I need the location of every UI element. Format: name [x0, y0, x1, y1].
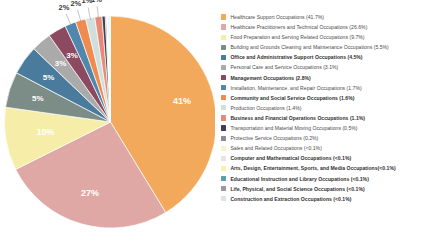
pie-slice-percent-label: 41%: [173, 96, 191, 106]
legend-color-swatch: [221, 115, 226, 120]
pie-chart-figure: 41%27%10%5%5%3%3%2%2%1%1% Healthcare Sup…: [0, 0, 427, 243]
legend-item-label: Arts, Design, Entertainment, Sports, and…: [230, 163, 395, 173]
legend-item-label: Personal Care and Service Occupations (3…: [230, 62, 338, 72]
pie-chart-panel: 41%27%10%5%5%3%3%2%2%1%1%: [0, 0, 215, 243]
legend-item-label: Installation, Maintenance, and Repair Oc…: [230, 83, 361, 93]
legend-item[interactable]: Food Preparation and Serving Related Occ…: [221, 32, 423, 42]
legend-color-swatch: [221, 55, 226, 60]
pie-slice-percent-label: 2%: [70, 0, 81, 8]
legend-item[interactable]: Sales and Related Occupations (<0.1%): [221, 143, 423, 153]
legend-item[interactable]: Building and Grounds Cleaning and Mainte…: [221, 42, 423, 52]
legend-item-label: Healthcare Practitioners and Technical O…: [230, 22, 367, 32]
legend-item-label: Office and Administrative Support Occupa…: [230, 52, 362, 62]
legend-color-swatch: [221, 65, 226, 70]
legend-color-swatch: [221, 156, 226, 161]
legend-item-label: Healthcare Support Occupations (41.7%): [230, 12, 324, 22]
legend-item[interactable]: Personal Care and Service Occupations (3…: [221, 62, 423, 72]
legend-item[interactable]: Installation, Maintenance, and Repair Oc…: [221, 83, 423, 93]
legend-color-swatch: [221, 166, 226, 171]
legend-color-swatch: [221, 176, 226, 181]
pie-slice-percent-label: 3%: [55, 59, 67, 68]
legend-color-swatch: [221, 196, 226, 201]
pie-leader-line: [66, 14, 71, 26]
legend-item[interactable]: Protective Service Occupations (0.2%): [221, 133, 423, 143]
legend-color-swatch: [221, 186, 226, 191]
legend-item-label: Management Occupations (2.8%): [230, 73, 310, 83]
legend-panel: Healthcare Support Occupations (41.7%)He…: [215, 0, 427, 243]
legend-color-swatch: [221, 85, 226, 90]
legend-item-label: Computer and Mathematical Occupations (<…: [230, 153, 351, 163]
pie-chart-svg: 41%27%10%5%5%3%3%2%2%1%1%: [0, 0, 215, 243]
legend-item[interactable]: Management Occupations (2.8%): [221, 73, 423, 83]
legend-item-label: Food Preparation and Serving Related Occ…: [230, 32, 364, 42]
pie-slice-percent-label: 27%: [81, 188, 99, 198]
pie-slice-percent-label: 1%: [91, 0, 102, 4]
legend-color-swatch: [221, 14, 226, 19]
legend-item-label: Production Occupations (1.4%): [230, 103, 301, 113]
legend-item[interactable]: Community and Social Service Occupations…: [221, 93, 423, 103]
legend-list: Healthcare Support Occupations (41.7%)He…: [221, 12, 423, 204]
legend-item[interactable]: Arts, Design, Entertainment, Sports, and…: [221, 163, 423, 173]
pie-slices-group: [5, 16, 215, 228]
legend-item-label: Educational Instruction and Library Occu…: [230, 174, 369, 184]
legend-item[interactable]: Transportation and Material Moving Occup…: [221, 123, 423, 133]
legend-color-swatch: [221, 136, 226, 141]
legend-color-swatch: [221, 125, 226, 130]
legend-color-swatch: [221, 45, 226, 50]
legend-color-swatch: [221, 105, 226, 110]
legend-item-label: Protective Service Occupations (0.2%): [230, 133, 318, 143]
pie-slice-percent-label: 3%: [66, 51, 78, 60]
legend-item[interactable]: Business and Financial Operations Occupa…: [221, 113, 423, 123]
legend-color-swatch: [221, 95, 226, 100]
legend-item-label: Sales and Related Occupations (<0.1%): [230, 143, 322, 153]
legend-item[interactable]: Production Occupations (1.4%): [221, 103, 423, 113]
legend-item[interactable]: Healthcare Support Occupations (41.7%): [221, 12, 423, 22]
legend-item[interactable]: Educational Instruction and Library Occu…: [221, 174, 423, 184]
pie-slice-percent-label: 5%: [43, 73, 55, 82]
legend-item-label: Building and Grounds Cleaning and Mainte…: [230, 42, 388, 52]
legend-color-swatch: [221, 75, 226, 80]
legend-color-swatch: [221, 35, 226, 40]
legend-item[interactable]: Healthcare Practitioners and Technical O…: [221, 22, 423, 32]
legend-item[interactable]: Computer and Mathematical Occupations (<…: [221, 153, 423, 163]
legend-item-label: Life, Physical, and Social Science Occup…: [230, 184, 364, 194]
legend-color-swatch: [221, 24, 226, 29]
legend-item-label: Construction and Extraction Occupations …: [230, 194, 351, 204]
legend-item[interactable]: Life, Physical, and Social Science Occup…: [221, 184, 423, 194]
legend-item-label: Business and Financial Operations Occupa…: [230, 113, 365, 123]
legend-item[interactable]: Office and Administrative Support Occupa…: [221, 52, 423, 62]
legend-color-swatch: [221, 146, 226, 151]
legend-item[interactable]: Construction and Extraction Occupations …: [221, 194, 423, 204]
pie-slice-percent-label: 2%: [58, 3, 69, 12]
pie-slice-percent-label: 10%: [37, 127, 55, 137]
legend-item-label: Transportation and Material Moving Occup…: [230, 123, 357, 133]
legend-item-label: Community and Social Service Occupations…: [230, 93, 354, 103]
pie-slice-percent-label: 5%: [32, 94, 44, 103]
